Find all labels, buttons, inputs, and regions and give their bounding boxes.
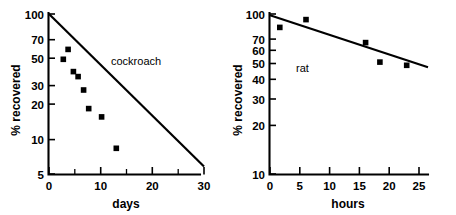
- y-tick-label: 30: [252, 94, 265, 106]
- data-point: [75, 74, 81, 80]
- y-tick-label: 70: [252, 34, 265, 46]
- x-tick-label: 10: [323, 180, 336, 192]
- cockroach-plot-area: [49, 13, 205, 175]
- data-point: [404, 63, 410, 69]
- rat-series-annotation: rat: [296, 62, 309, 74]
- y-tick-label: 5: [38, 169, 45, 181]
- cockroach-x-ticks: [49, 167, 204, 175]
- x-tick-label: 20: [383, 180, 396, 192]
- data-point: [277, 25, 283, 31]
- data-point: [363, 40, 369, 46]
- chart-panel-cockroach: 100 70 50 30 20 10 5 0 10 20 30 days % r…: [0, 0, 228, 215]
- y-tick-label: 100: [246, 9, 265, 21]
- data-point: [65, 47, 71, 53]
- data-point: [86, 106, 92, 112]
- x-tick-label: 5: [297, 180, 304, 192]
- x-tick-label: 25: [413, 180, 426, 192]
- data-point: [114, 146, 120, 152]
- y-tick-label: 60: [252, 45, 265, 57]
- y-tick-label: 50: [252, 58, 265, 70]
- cockroach-y-axis-title: % recovered: [9, 64, 23, 135]
- x-tick-label: 0: [46, 180, 52, 192]
- cockroach-x-axis-title: days: [112, 197, 140, 211]
- rat-x-axis-title: hours: [331, 197, 365, 211]
- rat-y-axis-title: % recovered: [231, 64, 245, 135]
- x-tick-label: 10: [94, 180, 107, 192]
- y-tick-label: 100: [25, 9, 44, 21]
- y-tick-label: 20: [252, 120, 265, 132]
- data-point: [61, 57, 67, 63]
- data-point: [81, 87, 87, 93]
- x-tick-label: 15: [353, 180, 366, 192]
- cockroach-y-tick-labels: 100 70 50 30 20 10 5: [25, 9, 45, 181]
- data-point: [377, 59, 383, 65]
- y-tick-label: 20: [31, 99, 44, 111]
- rat-y-tick-labels: 100 70 60 50 40 30 20 10: [246, 9, 265, 181]
- y-tick-label: 30: [31, 80, 44, 92]
- y-tick-label: 50: [31, 53, 44, 65]
- x-tick-label: 20: [146, 180, 159, 192]
- y-tick-label: 10: [252, 169, 265, 181]
- rat-x-ticks: [270, 167, 419, 175]
- rat-axis-lines: [270, 13, 429, 175]
- figure-container: 100 70 50 30 20 10 5 0 10 20 30 days % r…: [0, 0, 456, 215]
- x-tick-label: 0: [267, 180, 273, 192]
- x-tick-label: 30: [198, 180, 211, 192]
- cockroach-fit-line: [49, 14, 204, 167]
- cockroach-series-annotation: cockroach: [111, 55, 161, 67]
- cockroach-chart-svg: 100 70 50 30 20 10 5 0 10 20 30 days % r…: [0, 0, 228, 215]
- chart-panel-rat: 100 70 60 50 40 30 20 10 0 5 10 15 20 25…: [228, 0, 456, 215]
- y-tick-label: 10: [31, 134, 44, 146]
- rat-plot-area: [270, 13, 429, 175]
- data-point: [99, 114, 105, 120]
- y-tick-label: 70: [31, 34, 44, 46]
- rat-fit-line: [270, 15, 428, 67]
- data-point: [71, 69, 77, 75]
- y-tick-label: 40: [252, 74, 265, 86]
- rat-chart-svg: 100 70 60 50 40 30 20 10 0 5 10 15 20 25…: [228, 0, 456, 215]
- rat-x-tick-labels: 0 5 10 15 20 25: [267, 180, 426, 192]
- data-point: [303, 17, 309, 23]
- cockroach-x-tick-labels: 0 10 20 30: [46, 180, 211, 192]
